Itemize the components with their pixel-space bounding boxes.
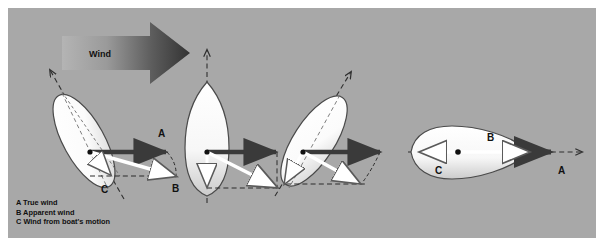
boat-1-label-a: A: [158, 128, 165, 139]
wind-label: Wind: [89, 49, 111, 59]
boat-2-origin-dot: [204, 149, 209, 154]
boat-3-group: [268, 72, 380, 196]
boat-1-group: A B C: [41, 70, 179, 199]
boat-1-label-b: B: [172, 183, 179, 194]
boat-1-origin-dot: [87, 149, 92, 154]
boat-2-group: [185, 50, 277, 203]
boat-3-arc-connector: [362, 152, 380, 183]
boat-3-origin-dot: [300, 149, 305, 154]
wind-arrow-group: Wind: [62, 22, 190, 84]
boat-1-hull: [41, 86, 127, 197]
boat-4-origin-dot: [455, 149, 461, 155]
boat-1-label-c: C: [101, 184, 108, 195]
boat-4-label-a: A: [558, 165, 565, 176]
boat-4-label-b: B: [487, 132, 494, 143]
legend: A True wind B Apparent wind C Wind from …: [16, 198, 111, 226]
legend-item-c: C Wind from boat's motion: [16, 217, 111, 226]
diagram-stage: Wind A B C: [0, 0, 604, 246]
boat-4-label-c: C: [435, 165, 442, 176]
legend-item-b: B Apparent wind: [16, 208, 75, 217]
boat-3-hull: [268, 86, 359, 196]
wind-arrow-icon: [62, 22, 190, 84]
legend-item-a: A True wind: [16, 198, 58, 207]
boat-4-group: A B C: [408, 126, 582, 179]
sailing-vector-diagram: Wind A B C: [0, 0, 604, 246]
